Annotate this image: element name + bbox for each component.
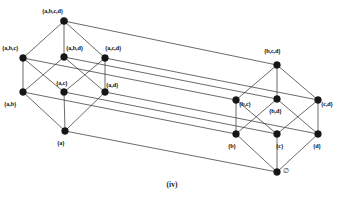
- hasse-node-d: [315, 131, 322, 138]
- hasse-node-label-ad: {a,d}: [106, 82, 118, 88]
- hasse-node-c: [274, 131, 281, 138]
- hasse-node-label-abd: {a,b,d}: [66, 45, 83, 51]
- hasse-edge: [64, 21, 105, 58]
- hasse-node-label-bd: {b,d}: [269, 108, 282, 114]
- hasse-edge: [64, 92, 277, 134]
- hasse-node-label-bc: {b,c}: [239, 101, 251, 107]
- hasse-node-label-empty: ∅: [283, 168, 289, 175]
- hasse-node-abc: [20, 55, 27, 62]
- hasse-node-label-a: {a}: [57, 140, 65, 146]
- edge-layer: [23, 21, 318, 172]
- hasse-edge: [236, 134, 277, 172]
- hasse-edge: [23, 92, 65, 131]
- hasse-edge: [105, 58, 318, 100]
- hasse-node-label-ab: {a,b}: [4, 101, 16, 107]
- figure-caption: (iv): [0, 180, 344, 189]
- hasse-edge: [23, 21, 64, 58]
- hasse-node-label-acd: {a,c,d}: [105, 45, 121, 51]
- hasse-node-bd: [274, 96, 281, 103]
- hasse-edge: [23, 92, 236, 134]
- hasse-node-abd: [61, 54, 68, 61]
- hasse-edge: [277, 65, 318, 100]
- hasse-node-label-cd: {c,d}: [321, 101, 333, 107]
- hasse-edge: [64, 92, 65, 131]
- hasse-node-acd: [102, 55, 109, 62]
- hasse-node-label-b: {b}: [228, 143, 236, 149]
- hasse-diagram-figure: {a,b,c,d}{a,b,c}{a,b,d}{a,c,d}{b,c,d}{a,…: [0, 0, 344, 198]
- hasse-node-label-abcd: {a,b,c,d}: [42, 8, 63, 14]
- hasse-node-label-ac: {a,c}: [56, 80, 68, 86]
- hasse-diagram-canvas: [0, 0, 344, 198]
- hasse-node-ab: [20, 89, 27, 96]
- hasse-node-a: [62, 128, 69, 135]
- hasse-node-empty: [274, 169, 281, 176]
- hasse-node-ad: [102, 89, 109, 96]
- hasse-node-ac: [61, 89, 68, 96]
- hasse-node-label-bcd: {b,c,d}: [264, 48, 281, 54]
- hasse-node-label-c: {c}: [276, 143, 283, 149]
- hasse-edge: [105, 92, 318, 134]
- hasse-node-abcd: [60, 17, 67, 24]
- hasse-node-bcd: [274, 62, 281, 69]
- hasse-edge: [65, 92, 105, 131]
- hasse-node-label-abc: {a,b,c}: [2, 45, 18, 51]
- hasse-edge: [64, 21, 277, 65]
- hasse-node-b: [233, 131, 240, 138]
- hasse-edge: [65, 131, 277, 172]
- hasse-node-label-d: {d}: [313, 143, 321, 149]
